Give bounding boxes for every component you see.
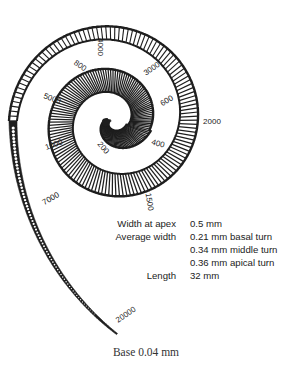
- frequency-label-400: 400: [150, 138, 166, 150]
- spec-label: Average width: [110, 230, 190, 243]
- spec-label: [110, 256, 190, 269]
- frequency-label-7000: 7000: [41, 190, 61, 207]
- frequency-label-1500: 1500: [143, 192, 155, 212]
- figure-caption: Base 0.04 mm: [0, 346, 292, 358]
- spec-row-length: Length 32 mm: [110, 269, 277, 282]
- frequency-label-4000: 4000: [96, 38, 105, 56]
- cochlea-spiral-diagram: 4000800300050006002000100040020070001500…: [0, 0, 292, 365]
- spec-value: 0.5 mm: [190, 217, 277, 230]
- spec-value: 0.21 mm basal turn: [190, 230, 277, 243]
- frequency-label-2000: 2000: [203, 117, 221, 126]
- spec-label: Length: [110, 269, 190, 282]
- dimension-specs-table: Width at apex 0.5 mm Average width 0.21 …: [110, 217, 277, 282]
- basal-turn-tail: [9, 121, 118, 335]
- spec-row-width-apex: Width at apex 0.5 mm: [110, 217, 277, 230]
- frequency-label-20000: 20000: [114, 304, 138, 324]
- spec-value: 0.36 mm apical turn: [190, 256, 277, 269]
- spec-row-average-width-middle: 0.34 mm middle turn: [110, 243, 277, 256]
- spec-row-average-width-apical: 0.36 mm apical turn: [110, 256, 277, 269]
- spec-value: 0.34 mm middle turn: [190, 243, 277, 256]
- spec-value: 32 mm: [190, 269, 277, 282]
- frequency-label-600: 600: [159, 93, 176, 108]
- spec-label: Width at apex: [110, 217, 190, 230]
- spec-row-average-width-basal: Average width 0.21 mm basal turn: [110, 230, 277, 243]
- spec-label: [110, 243, 190, 256]
